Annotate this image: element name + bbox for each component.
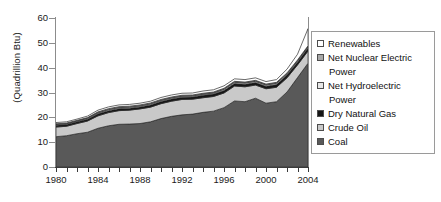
x-tick [109,168,110,172]
legend-label: Dry Natural Gas [328,107,396,121]
y-tick-label: 50 [22,38,48,48]
y-tick-label: 20 [22,112,48,122]
x-tick [308,168,309,172]
y-tick-label: 30 [22,88,48,98]
y-tick-label: 0 [22,162,48,172]
x-tick [235,168,236,172]
legend-label: Coal [328,135,348,149]
x-tick [214,168,215,172]
x-tick [245,168,246,172]
plot-right-border [308,17,309,168]
y-tick-label: 10 [22,137,48,147]
x-tick [77,168,78,172]
plot-area [56,18,308,167]
x-tick [287,168,288,172]
x-tick [130,168,131,172]
legend-item[interactable]: Net Nuclear Electric [317,51,430,65]
y-tick [49,117,55,118]
legend-swatch-icon [317,82,324,89]
legend-label-continuation: Power [317,93,430,107]
y-tick [49,18,55,19]
x-tick [151,168,152,172]
x-tick [88,168,89,172]
legend-swatch-icon [317,124,324,131]
x-tick-label: 1980 [36,175,76,185]
legend-item[interactable]: Dry Natural Gas [317,107,430,121]
x-tick [161,168,162,172]
x-tick [56,168,57,172]
legend-label: Net Nuclear Electric [328,51,412,65]
x-tick-label: 1996 [204,175,244,185]
x-tick [119,168,120,172]
x-tick-label: 2000 [246,175,286,185]
x-tick [182,168,183,172]
x-tick [298,168,299,172]
legend-item[interactable]: Coal [317,135,430,149]
x-tick-label: 1992 [162,175,202,185]
legend-item[interactable]: Renewables [317,37,430,51]
legend-swatch-icon [317,54,324,61]
legend-swatch-icon [317,110,324,117]
y-tick [49,167,55,168]
x-tick-label: 1988 [120,175,160,185]
x-tick [224,168,225,172]
x-tick [193,168,194,172]
stacked-area-chart: (Quadrillion Btu) 0102030405060 19801984… [0,0,441,202]
x-tick-label: 1984 [78,175,118,185]
legend-swatch-icon [317,138,324,145]
x-tick [277,168,278,172]
x-tick [203,168,204,172]
legend-item[interactable]: Crude Oil [317,121,430,135]
y-tick [49,43,55,44]
x-tick [98,168,99,172]
legend-label: Net Hydroelectric [328,79,401,93]
y-tick [49,68,55,69]
y-tick-label: 60 [22,13,48,23]
legend-label: Crude Oil [328,121,368,135]
x-tick [266,168,267,172]
x-tick [256,168,257,172]
y-tick [49,142,55,143]
x-tick [172,168,173,172]
legend-item[interactable]: Net Hydroelectric [317,79,430,93]
y-tick-label: 40 [22,63,48,73]
y-tick [49,93,55,94]
legend-label: Renewables [328,37,380,51]
chart-legend: RenewablesNet Nuclear ElectricPowerNet H… [311,31,435,154]
legend-swatch-icon [317,40,324,47]
stacked-area-series [56,18,308,167]
x-tick [67,168,68,172]
x-tick-label: 2004 [288,175,328,185]
legend-label-continuation: Power [317,65,430,79]
x-tick [140,168,141,172]
